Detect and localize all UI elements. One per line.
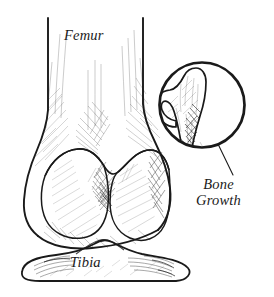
femur-condyle-base-outline [38,230,158,249]
bone-growth-callout [156,61,246,175]
label-femur: Femur [64,28,104,44]
tibia-surface-hatching [50,260,164,277]
condyle-base-shading [44,222,150,248]
label-tibia: Tibia [70,255,101,271]
anatomy-drawing [0,0,274,297]
knee-joint-illustration: Femur Tibia Bone Growth [0,0,274,297]
femur-outline-left [24,18,48,236]
label-bone-growth: Bone Growth [196,177,241,208]
femur-group [24,18,171,249]
callout-leader-line [218,144,233,175]
medial-condyle-shading [52,160,102,236]
